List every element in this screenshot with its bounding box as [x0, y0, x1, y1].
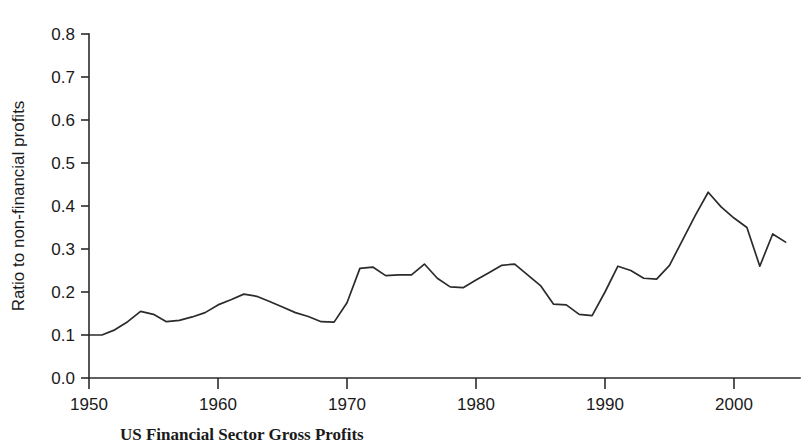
x-axis-tick-labels: 195019601970198019902000 — [70, 395, 753, 414]
y-axis-tick-marks — [81, 34, 89, 378]
x-tick-label: 1950 — [70, 395, 108, 414]
x-tick-label: 1990 — [586, 395, 624, 414]
figure-container: 0.00.10.20.30.40.50.60.70.8 195019601970… — [0, 0, 809, 443]
y-tick-label: 0.3 — [51, 240, 75, 259]
y-axis-tick-labels: 0.00.10.20.30.40.50.60.70.8 — [51, 25, 75, 388]
y-tick-label: 0.2 — [51, 283, 75, 302]
y-tick-label: 0.5 — [51, 154, 75, 173]
data-series-line — [89, 192, 786, 335]
y-tick-label: 0.7 — [51, 68, 75, 87]
x-tick-label: 1970 — [328, 395, 366, 414]
y-tick-label: 0.8 — [51, 25, 75, 44]
y-tick-label: 0.0 — [51, 369, 75, 388]
figure-caption: US Financial Sector Gross Profits — [120, 425, 364, 443]
y-tick-label: 0.6 — [51, 111, 75, 130]
x-tick-label: 1960 — [199, 395, 237, 414]
y-tick-label: 0.4 — [51, 197, 75, 216]
x-tick-label: 1980 — [457, 395, 495, 414]
line-chart: 0.00.10.20.30.40.50.60.70.8 195019601970… — [0, 0, 809, 443]
x-axis-tick-marks — [89, 378, 734, 389]
y-axis-title: Ratio to non-financial profits — [9, 101, 28, 312]
x-tick-label: 2000 — [715, 395, 753, 414]
y-tick-label: 0.1 — [51, 326, 75, 345]
